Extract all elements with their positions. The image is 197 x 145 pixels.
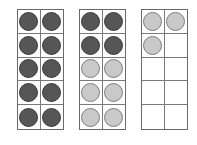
dark-counter-icon xyxy=(104,36,123,55)
frame-cell xyxy=(41,81,64,105)
frame-cell xyxy=(18,81,41,105)
frame-cell xyxy=(80,34,103,58)
dark-counter-icon xyxy=(104,12,123,31)
light-counter-icon xyxy=(166,12,185,31)
frame-cell xyxy=(165,81,188,105)
dark-counter-icon xyxy=(42,12,61,31)
light-counter-icon xyxy=(104,59,123,78)
frame-cell xyxy=(165,34,188,58)
dark-counter-icon xyxy=(19,36,38,55)
frame-cell xyxy=(41,34,64,58)
dark-counter-icon xyxy=(81,12,100,31)
frame-cell xyxy=(80,105,103,129)
frame-cell xyxy=(80,10,103,34)
ten-frame-2 xyxy=(79,9,126,130)
light-counter-icon xyxy=(143,12,162,31)
frame-cell xyxy=(142,58,165,82)
light-counter-icon xyxy=(81,83,100,102)
dark-counter-icon xyxy=(42,36,61,55)
frame-cell xyxy=(41,10,64,34)
dark-counter-icon xyxy=(19,59,38,78)
frame-cell xyxy=(165,105,188,129)
frame-cell xyxy=(18,58,41,82)
dark-counter-icon xyxy=(19,83,38,102)
frame-cell xyxy=(165,58,188,82)
frame-cell xyxy=(142,10,165,34)
frame-cell xyxy=(142,105,165,129)
frame-cell xyxy=(18,105,41,129)
frame-cell xyxy=(103,81,126,105)
frame-cell xyxy=(80,81,103,105)
dark-counter-icon xyxy=(42,83,61,102)
frame-cell xyxy=(103,58,126,82)
frame-cell xyxy=(41,58,64,82)
frame-cell xyxy=(142,34,165,58)
dark-counter-icon xyxy=(81,36,100,55)
dark-counter-icon xyxy=(42,108,61,127)
frame-cell xyxy=(142,81,165,105)
frame-cell xyxy=(165,10,188,34)
frame-cell xyxy=(41,105,64,129)
light-counter-icon xyxy=(104,83,123,102)
light-counter-icon xyxy=(104,108,123,127)
ten-frame-3 xyxy=(141,9,188,130)
light-counter-icon xyxy=(81,108,100,127)
light-counter-icon xyxy=(81,59,100,78)
dark-counter-icon xyxy=(42,59,61,78)
frame-cell xyxy=(103,34,126,58)
dark-counter-icon xyxy=(19,12,38,31)
frame-cell xyxy=(18,34,41,58)
frame-cell xyxy=(18,10,41,34)
light-counter-icon xyxy=(143,36,162,55)
frame-cell xyxy=(80,58,103,82)
frame-cell xyxy=(103,10,126,34)
frame-cell xyxy=(103,105,126,129)
ten-frame-1 xyxy=(17,9,64,130)
dark-counter-icon xyxy=(19,108,38,127)
